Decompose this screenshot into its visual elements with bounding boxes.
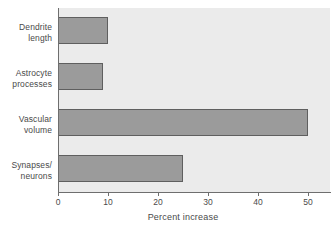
bar-chart-figure: Dendrite length Astrocyte processes Vasc…	[0, 0, 336, 236]
category-label-line: Dendrite	[0, 22, 52, 33]
bar-vascular-volume	[58, 109, 308, 136]
bar-dendrite-length	[58, 17, 108, 44]
x-axis-label: Percent increase	[58, 212, 308, 222]
category-label-dendrite-length: Dendrite length	[0, 22, 52, 43]
x-tick-mark	[308, 192, 309, 196]
plot-area	[58, 8, 330, 192]
category-label-line: Synapses/	[0, 160, 52, 171]
x-tick-label-40: 40	[246, 197, 270, 208]
y-axis-line	[58, 8, 59, 193]
category-label-line: processes	[0, 79, 52, 90]
bar-row	[58, 146, 330, 192]
bar-row	[58, 8, 330, 54]
x-tick-mark	[208, 192, 209, 196]
x-tick-mark	[58, 192, 59, 196]
x-tick-label-50: 50	[296, 197, 320, 208]
bar-row	[58, 100, 330, 146]
category-label-line: volume	[0, 125, 52, 136]
bar-row	[58, 54, 330, 100]
category-label-line: length	[0, 33, 52, 44]
x-axis-line	[58, 192, 331, 193]
x-tick-mark	[158, 192, 159, 196]
x-tick-label-0: 0	[46, 197, 70, 208]
category-label-line: neurons	[0, 171, 52, 182]
category-label-vascular-volume: Vascular volume	[0, 114, 52, 135]
x-tick-label-30: 30	[196, 197, 220, 208]
x-tick-label-10: 10	[96, 197, 120, 208]
category-label-synapses-neurons: Synapses/ neurons	[0, 160, 52, 181]
category-label-line: Vascular	[0, 114, 52, 125]
category-label-astrocyte-processes: Astrocyte processes	[0, 68, 52, 89]
x-tick-label-20: 20	[146, 197, 170, 208]
bar-synapses-neurons	[58, 155, 183, 182]
x-tick-mark	[108, 192, 109, 196]
bar-astrocyte-processes	[58, 63, 103, 90]
x-tick-mark	[258, 192, 259, 196]
category-label-line: Astrocyte	[0, 68, 52, 79]
